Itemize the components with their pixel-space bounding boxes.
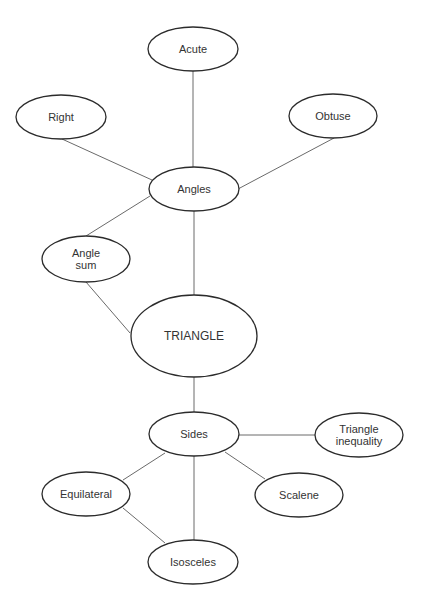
- node-label: sum: [76, 259, 97, 271]
- node-obtuse: Obtuse: [289, 94, 377, 138]
- node-label: Angle: [72, 247, 100, 259]
- nodes-layer: AcuteRightObtuseAnglesAnglesumTRIANGLESi…: [16, 27, 403, 584]
- node-right: Right: [16, 95, 106, 139]
- node-label: Isosceles: [170, 556, 216, 568]
- edge-angles-to-angle-sum: [86, 196, 150, 236]
- node-triangle-inequality: Triangleinequality: [315, 413, 403, 457]
- node-label: TRIANGLE: [164, 329, 224, 343]
- node-label: inequality: [336, 435, 383, 447]
- node-label: Acute: [179, 43, 207, 55]
- node-acute: Acute: [148, 27, 238, 71]
- edge-angle-sum-to-triangle: [86, 282, 130, 333]
- node-scalene: Scalene: [255, 473, 343, 517]
- edge-sides-to-scalene: [225, 452, 265, 479]
- triangle-concept-map: AcuteRightObtuseAnglesAnglesumTRIANGLESi…: [0, 0, 422, 610]
- edge-right-to-angles: [62, 139, 152, 180]
- node-angles: Angles: [149, 167, 239, 211]
- node-label: Angles: [177, 183, 211, 195]
- edge-equilateral-to-isosceles: [123, 508, 165, 543]
- edge-sides-to-equilateral: [123, 453, 165, 480]
- node-label: Sides: [180, 428, 208, 440]
- node-sides: Sides: [149, 412, 239, 456]
- node-label: Scalene: [279, 489, 319, 501]
- node-label: Right: [48, 111, 74, 123]
- edge-obtuse-to-angles: [238, 138, 334, 189]
- node-label: Equilateral: [60, 488, 112, 500]
- node-label: Obtuse: [315, 110, 350, 122]
- node-angle-sum: Anglesum: [42, 236, 130, 282]
- node-label: Triangle: [339, 423, 378, 435]
- node-isosceles: Isosceles: [148, 540, 238, 584]
- node-equilateral: Equilateral: [42, 472, 130, 516]
- node-triangle: TRIANGLE: [131, 295, 257, 377]
